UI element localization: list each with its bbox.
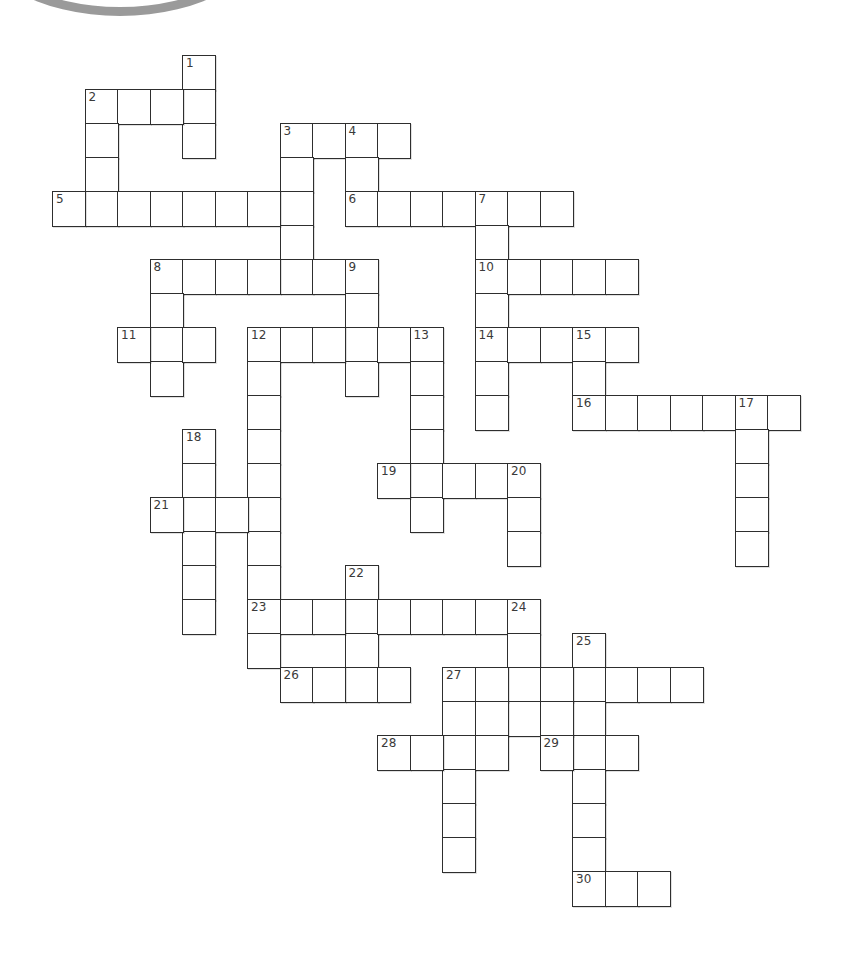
crossword-cell[interactable] — [735, 497, 769, 533]
crossword-cell[interactable] — [345, 633, 379, 669]
crossword-cell[interactable] — [247, 191, 281, 227]
crossword-cell[interactable]: 5 — [52, 191, 86, 227]
crossword-cell[interactable] — [507, 497, 541, 533]
crossword-cell[interactable]: 25 — [572, 633, 606, 669]
crossword-cell[interactable] — [117, 89, 151, 125]
crossword-cell[interactable] — [637, 871, 671, 907]
crossword-cell[interactable] — [475, 599, 509, 635]
crossword-cell[interactable] — [507, 701, 541, 737]
crossword-cell[interactable] — [377, 123, 411, 159]
crossword-cell[interactable] — [345, 293, 379, 329]
crossword-cell[interactable] — [572, 735, 606, 771]
crossword-cell[interactable]: 30 — [572, 871, 606, 907]
crossword-cell[interactable] — [605, 735, 639, 771]
crossword-cell[interactable] — [540, 191, 574, 227]
crossword-cell[interactable] — [475, 463, 509, 499]
crossword-cell[interactable] — [735, 463, 769, 499]
crossword-cell[interactable]: 20 — [507, 463, 541, 499]
crossword-cell[interactable] — [312, 667, 346, 703]
crossword-cell[interactable] — [637, 667, 671, 703]
crossword-cell[interactable] — [410, 429, 444, 465]
crossword-cell[interactable] — [85, 123, 119, 159]
crossword-cell[interactable]: 17 — [735, 395, 769, 431]
crossword-cell[interactable]: 15 — [572, 327, 606, 363]
crossword-cell[interactable]: 1 — [182, 55, 216, 91]
crossword-cell[interactable] — [442, 735, 476, 771]
crossword-cell[interactable] — [767, 395, 801, 431]
crossword-cell[interactable] — [605, 395, 639, 431]
crossword-cell[interactable] — [182, 599, 216, 635]
crossword-cell[interactable] — [507, 531, 541, 567]
crossword-cell[interactable] — [312, 599, 346, 635]
crossword-cell[interactable] — [280, 259, 314, 295]
crossword-cell[interactable] — [572, 259, 606, 295]
crossword-cell[interactable] — [182, 191, 216, 227]
crossword-cell[interactable] — [605, 259, 639, 295]
crossword-cell[interactable] — [377, 599, 411, 635]
crossword-cell[interactable] — [377, 327, 411, 363]
crossword-cell[interactable] — [247, 633, 281, 669]
crossword-cell[interactable] — [247, 531, 281, 567]
crossword-cell[interactable] — [475, 225, 509, 261]
crossword-cell[interactable] — [670, 395, 704, 431]
crossword-cell[interactable] — [670, 667, 704, 703]
crossword-cell[interactable] — [345, 327, 379, 363]
crossword-cell[interactable] — [345, 599, 379, 635]
crossword-cell[interactable] — [410, 395, 444, 431]
crossword-cell[interactable]: 8 — [150, 259, 184, 295]
crossword-cell[interactable]: 23 — [247, 599, 281, 635]
crossword-cell[interactable] — [312, 123, 346, 159]
crossword-cell[interactable]: 13 — [410, 327, 444, 363]
crossword-cell[interactable] — [410, 191, 444, 227]
crossword-cell[interactable] — [507, 191, 541, 227]
crossword-cell[interactable] — [410, 463, 444, 499]
crossword-cell[interactable] — [410, 735, 444, 771]
crossword-cell[interactable] — [475, 395, 509, 431]
crossword-cell[interactable] — [85, 157, 119, 193]
crossword-cell[interactable] — [735, 429, 769, 465]
crossword-cell[interactable] — [572, 769, 606, 805]
crossword-cell[interactable] — [507, 327, 541, 363]
crossword-cell[interactable] — [475, 293, 509, 329]
crossword-cell[interactable] — [475, 735, 509, 771]
crossword-cell[interactable] — [280, 157, 314, 193]
crossword-cell[interactable]: 9 — [345, 259, 379, 295]
crossword-cell[interactable]: 22 — [345, 565, 379, 601]
crossword-cell[interactable]: 12 — [247, 327, 281, 363]
crossword-cell[interactable] — [117, 191, 151, 227]
crossword-cell[interactable] — [442, 463, 476, 499]
crossword-cell[interactable]: 7 — [475, 191, 509, 227]
crossword-cell[interactable] — [312, 327, 346, 363]
crossword-cell[interactable] — [735, 531, 769, 567]
crossword-cell[interactable] — [85, 191, 119, 227]
crossword-cell[interactable]: 21 — [150, 497, 184, 533]
crossword-cell[interactable] — [377, 667, 411, 703]
crossword-cell[interactable]: 29 — [540, 735, 574, 771]
crossword-cell[interactable]: 4 — [345, 123, 379, 159]
crossword-cell[interactable] — [572, 803, 606, 839]
crossword-cell[interactable] — [182, 463, 216, 499]
crossword-cell[interactable]: 11 — [117, 327, 151, 363]
crossword-cell[interactable]: 6 — [345, 191, 379, 227]
crossword-cell[interactable] — [215, 259, 249, 295]
crossword-cell[interactable] — [182, 497, 216, 533]
crossword-cell[interactable] — [182, 123, 216, 159]
crossword-cell[interactable]: 10 — [475, 259, 509, 295]
crossword-cell[interactable] — [182, 327, 216, 363]
crossword-cell[interactable] — [182, 531, 216, 567]
crossword-cell[interactable] — [410, 599, 444, 635]
crossword-cell[interactable] — [150, 327, 184, 363]
crossword-cell[interactable] — [507, 633, 541, 669]
crossword-cell[interactable] — [637, 395, 671, 431]
crossword-cell[interactable] — [475, 667, 509, 703]
crossword-cell[interactable] — [442, 701, 476, 737]
crossword-cell[interactable] — [280, 225, 314, 261]
crossword-cell[interactable] — [475, 361, 509, 397]
crossword-cell[interactable] — [247, 395, 281, 431]
crossword-cell[interactable] — [442, 803, 476, 839]
crossword-cell[interactable] — [312, 259, 346, 295]
crossword-cell[interactable] — [345, 361, 379, 397]
crossword-cell[interactable] — [377, 191, 411, 227]
crossword-cell[interactable] — [150, 191, 184, 227]
crossword-cell[interactable] — [572, 361, 606, 397]
